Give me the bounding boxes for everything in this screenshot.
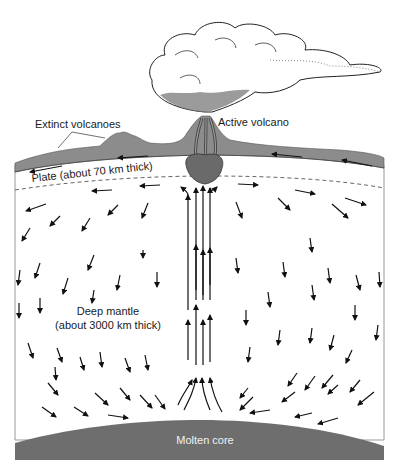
- label-molten-core: Molten core: [176, 434, 233, 446]
- eruption-cloud-icon: [150, 22, 381, 112]
- label-deep-mantle: Deep mantle: [77, 305, 139, 317]
- label-extinct-volcanoes: Extinct volcanoes: [35, 118, 121, 130]
- mantle-plume-diagram: Extinct volcanoes Active volcano Plate (…: [0, 0, 398, 472]
- label-active-volcano: Active volcano: [218, 116, 289, 128]
- leader-line-extinct-volcanoes: [58, 132, 105, 148]
- plume-head: [186, 154, 223, 184]
- label-deep-mantle-thickness: (about 3000 km thick): [55, 319, 161, 331]
- plume-upwelling-arrows: [178, 186, 222, 412]
- right-mantle-arrows: [236, 238, 380, 424]
- mantle-frame: [15, 165, 384, 440]
- left-mantle-arrows: [18, 250, 165, 418]
- upper-mantle-arrows: [22, 184, 366, 241]
